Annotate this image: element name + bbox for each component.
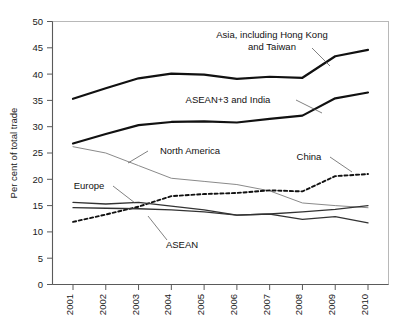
y-tick-label: 25 [32,147,43,158]
y-tick-label: 45 [32,42,43,53]
chart-container: 05101520253035404550 2001200220032004200… [0,0,404,333]
y-tick-label: 5 [38,253,43,264]
x-tick-label: 2008 [293,294,304,315]
y-tick-label: 20 [32,174,43,185]
x-tick-label: 2006 [228,294,239,315]
y-tick-label: 10 [32,226,43,237]
y-tick-label: 40 [32,69,43,80]
series-label-north-america: North America [160,145,221,156]
x-tick-label: 2003 [130,294,141,315]
series-label-china: China [297,151,323,162]
series-label-asean: ASEAN [166,239,198,250]
y-axis-title: Per cent of total trade [8,108,19,199]
y-tick-label: 30 [32,121,43,132]
x-tick-label: 2009 [326,294,337,315]
x-tick-label: 2001 [64,294,75,315]
x-tick-label: 2005 [195,294,206,315]
x-tick-label: 2002 [97,294,108,315]
y-tick-label: 35 [32,95,43,106]
x-tick-label: 2010 [359,294,370,315]
y-tick-label: 0 [38,279,43,290]
line-chart: 05101520253035404550 2001200220032004200… [0,0,404,333]
series-label-europe: Europe [74,180,105,191]
y-tick-label: 50 [32,16,43,27]
y-tick-label: 15 [32,200,43,211]
series-label-asean3: ASEAN+3 and India [186,94,271,105]
x-tick-label: 2007 [261,294,272,315]
x-tick-label: 2004 [162,294,173,315]
